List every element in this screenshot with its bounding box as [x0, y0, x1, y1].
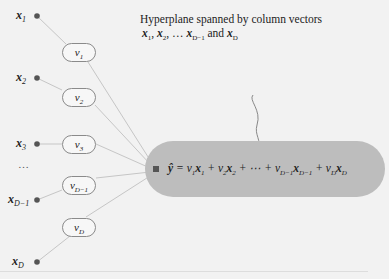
weight-node-d-minus-1: vD−1 [62, 176, 96, 195]
input-node-d-minus-1 [34, 197, 40, 203]
input-label-3: x3 [16, 136, 26, 152]
input-label-d: xD [12, 254, 24, 270]
annotation-text: Hyperplane spanned by column vectors [262, 12, 389, 26]
input-label-d-minus-1: xD−1 [8, 192, 29, 208]
input-node-3 [34, 141, 40, 147]
input-node-1 [34, 13, 40, 19]
divider [0, 271, 368, 272]
input-node-2 [34, 75, 40, 81]
output-square-icon [153, 166, 159, 172]
weight-node-1: v1 [62, 43, 96, 62]
input-label-2: x2 [16, 70, 26, 86]
weight-node-3: v3 [62, 135, 96, 154]
annotation-line2: x1, x2, … xD−1 and xD [142, 26, 238, 45]
ellipsis: … [18, 158, 29, 170]
input-node-d [34, 259, 40, 265]
input-label-1: x1 [16, 8, 26, 24]
output-equation: ŷ = v1x1 + v2x2 + ⋯ + vD−1xD−1 + vDxD [168, 161, 347, 177]
weight-node-d: vD [62, 218, 96, 237]
weight-node-2: v2 [62, 88, 96, 107]
